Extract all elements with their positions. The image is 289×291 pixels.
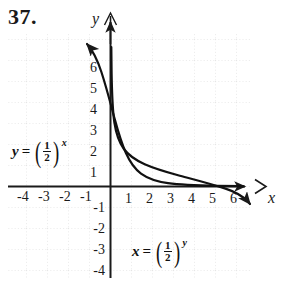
equation-b-equals: = [143, 244, 152, 259]
y-tick-label: 2 [90, 144, 97, 159]
fraction-numerator: 1 [164, 240, 172, 251]
x-tick-label: -2 [59, 189, 71, 204]
y-tick-label: 5 [90, 81, 97, 96]
y-tick-label: 6 [90, 60, 97, 75]
equation-label-curve-b: x = ( 1 2 ) y [132, 240, 187, 263]
figure-container: 37. x y -4 [0, 0, 289, 291]
fraction-one-half: 1 2 [43, 140, 51, 163]
y-tick-label: 4 [90, 102, 97, 117]
y-tick-label: 3 [90, 123, 97, 138]
y-tick-label: 1 [90, 165, 97, 180]
equation-a-exponent: x [62, 138, 67, 148]
fraction-denominator: 2 [43, 151, 51, 163]
y-tick-label: -1 [93, 200, 105, 215]
equation-b-exponent: y [183, 238, 187, 248]
right-paren-icon: ) [53, 141, 59, 163]
equation-label-curve-a: y = ( 1 2 ) x [12, 140, 67, 163]
equation-a-equals: = [22, 144, 31, 159]
right-paren-icon: ) [173, 241, 179, 263]
y-tick-label: -2 [93, 221, 105, 236]
left-paren-icon: ( [156, 241, 162, 263]
x-tick-label: 2 [146, 191, 153, 206]
x-tick-label: 4 [188, 191, 195, 206]
x-axis-label: x [267, 189, 275, 206]
x-tick-label: -1 [80, 189, 92, 204]
equation-a-expression: ( 1 2 ) x [33, 140, 67, 163]
equation-a-lhs: y [12, 144, 19, 159]
x-tick-label: 3 [167, 191, 174, 206]
x-tick-label: -3 [38, 189, 50, 204]
y-tick-label: -3 [93, 242, 105, 257]
x-tick-label: 5 [209, 191, 216, 206]
x-tick-label: -4 [17, 189, 29, 204]
y-axis-label: y [90, 10, 100, 28]
fraction-one-half: 1 2 [164, 240, 172, 263]
equation-b-expression: ( 1 2 ) y [154, 240, 187, 263]
left-paren-icon: ( [35, 141, 41, 163]
fraction-numerator: 1 [43, 140, 51, 151]
x-tick-label: 1 [125, 191, 132, 206]
fraction-denominator: 2 [164, 251, 172, 263]
y-tick-label: -4 [93, 263, 105, 278]
equation-b-lhs: x [132, 244, 140, 259]
